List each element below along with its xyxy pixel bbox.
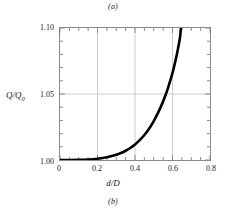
- y-axis-title-base: Q/Q: [6, 90, 22, 100]
- y-tick-label: 1.05: [28, 90, 54, 99]
- plot-frame: [59, 27, 211, 161]
- panel-caption-a: (a): [0, 2, 226, 12]
- plot-canvas: [60, 28, 210, 160]
- figure-panel-b: (a) Q/Q0 1.001.051.10 00.20.40.60.8 d/D …: [0, 0, 226, 213]
- y-axis-title-subscript: 0: [22, 95, 25, 102]
- x-tick-label: 0: [47, 164, 71, 173]
- x-tick-label: 0.4: [123, 164, 147, 173]
- x-tick-label: 0.8: [199, 164, 223, 173]
- x-tick-label: 0.2: [85, 164, 109, 173]
- grid-layer: [60, 28, 210, 160]
- x-axis-title: d/D: [0, 178, 226, 188]
- y-tick-label: 1.10: [28, 23, 54, 32]
- panel-caption-b: (b): [0, 197, 226, 207]
- x-tick-label: 0.6: [161, 164, 185, 173]
- y-axis-title: Q/Q0: [6, 90, 25, 102]
